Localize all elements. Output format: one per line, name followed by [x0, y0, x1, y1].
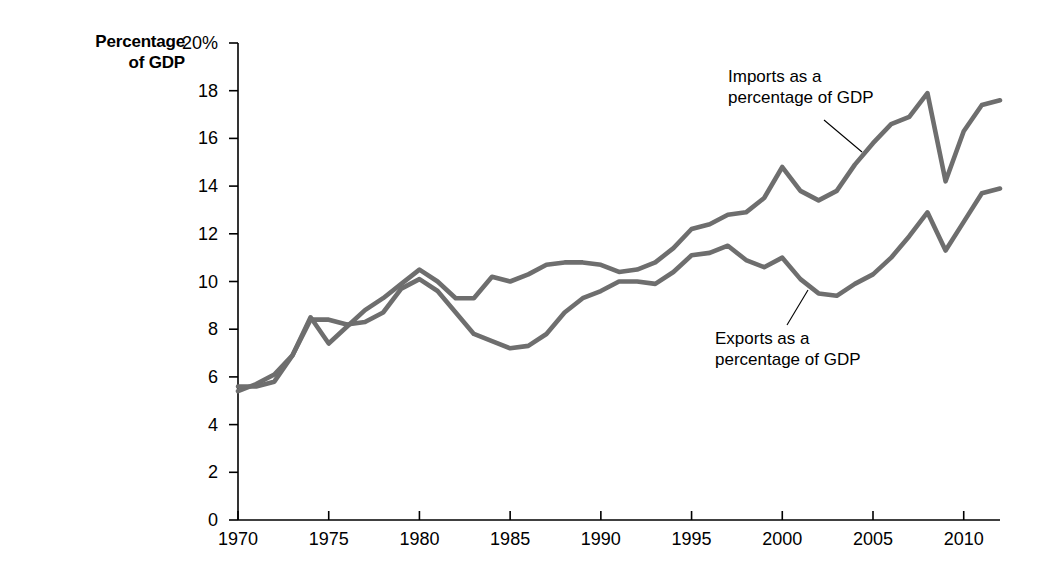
x-tick-label: 1980 — [384, 530, 454, 548]
plot-area — [0, 0, 1059, 582]
exports-annotation: Exports as a percentage of GDP — [715, 328, 861, 370]
y-axis-title: Percentage of GDP — [40, 31, 185, 73]
exports-leader-line — [787, 290, 808, 325]
imports-leader-line — [824, 120, 862, 152]
y-tick-label: 16 — [170, 129, 218, 147]
y-tick-label: 2 — [170, 463, 218, 481]
y-tick-label: 4 — [170, 416, 218, 434]
x-tick-label: 1995 — [657, 530, 727, 548]
data-series-group — [238, 93, 1000, 391]
imports-line — [238, 93, 1000, 391]
y-axis-ticks — [229, 43, 238, 520]
chart-container: Percentage of GDP 20%181614121086420 197… — [0, 0, 1059, 582]
x-tick-label: 2005 — [838, 530, 908, 548]
y-tick-label: 0 — [170, 511, 218, 529]
y-tick-label: 12 — [170, 225, 218, 243]
y-tick-label: 10 — [170, 273, 218, 291]
x-tick-label: 1990 — [566, 530, 636, 548]
x-tick-label: 1975 — [294, 530, 364, 548]
exports-line — [238, 188, 1000, 386]
x-tick-label: 1970 — [203, 530, 273, 548]
y-tick-label: 6 — [170, 368, 218, 386]
y-tick-label: 14 — [170, 177, 218, 195]
x-tick-label: 1985 — [475, 530, 545, 548]
imports-annotation: Imports as a percentage of GDP — [728, 66, 874, 108]
y-tick-label: 8 — [170, 320, 218, 338]
y-tick-label: 18 — [170, 82, 218, 100]
x-axis-ticks — [238, 511, 964, 520]
y-tick-label: 20% — [170, 34, 218, 52]
x-tick-label: 2010 — [929, 530, 999, 548]
x-tick-label: 2000 — [747, 530, 817, 548]
